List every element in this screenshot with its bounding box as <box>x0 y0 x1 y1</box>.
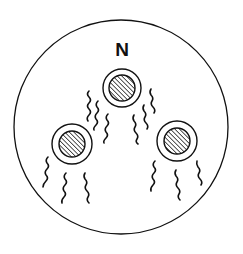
flagellum <box>133 115 138 144</box>
cell-right-nucleus <box>164 128 190 154</box>
flagellum <box>62 173 67 203</box>
cell-right-flagella <box>151 161 202 200</box>
cell-top-nucleus <box>109 75 135 101</box>
flagellum <box>104 114 109 143</box>
diagram-label: N <box>115 39 129 60</box>
flagellum <box>150 89 155 113</box>
flagellum <box>175 170 180 200</box>
flagellum <box>43 157 49 187</box>
flagellum <box>151 161 156 191</box>
cell-left-flagella <box>43 157 89 203</box>
diagram-canvas: N <box>0 0 243 254</box>
cell-left-nucleus <box>59 131 85 157</box>
flagellum <box>87 91 90 121</box>
flagellum <box>143 105 148 129</box>
cell-top <box>103 69 141 107</box>
flagellum <box>94 101 99 130</box>
flagellum <box>197 161 202 185</box>
flagellum <box>84 173 89 203</box>
cell-left <box>52 124 92 164</box>
cell-right <box>157 121 197 161</box>
